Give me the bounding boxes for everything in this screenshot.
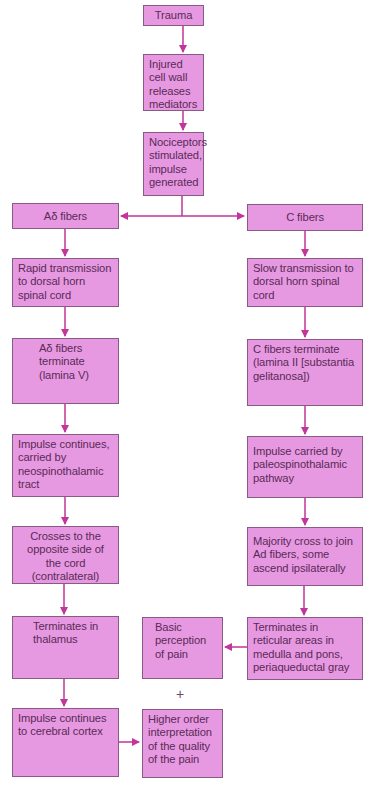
node-terminates-thalamus: Terminates in thalamus: [12, 616, 119, 679]
node-basic-perception: Basic perception of pain: [142, 617, 223, 679]
node-impulse-cortex: Impulse continues to cerebral cortex: [12, 708, 119, 777]
node-crosses-opposite: Crosses to the opposite side of the cord…: [12, 526, 119, 584]
node-a-delta-terminate: Aδ fibers terminate (lamina V): [12, 338, 119, 404]
node-c-fibers: C fibers: [247, 204, 363, 231]
node-higher-order: Higher order interpretation of the quali…: [142, 709, 223, 778]
node-nociceptors: Nociceptors stimulated, impulse generate…: [143, 132, 204, 196]
node-injured-cell: Injured cell wall releases mediators: [143, 54, 204, 111]
node-impulse-continues-neo: Impulse continues, carried by neospinoth…: [12, 434, 119, 497]
node-c-terminate: C fibers terminate (lamina II [substanti…: [247, 339, 363, 406]
node-slow-transmission: Slow transmission to dorsal horn spinal …: [247, 258, 363, 307]
node-rapid-transmission: Rapid transmission to dorsal horn spinal…: [12, 258, 119, 307]
node-trauma: Trauma: [143, 5, 204, 26]
plus-sign: +: [176, 686, 184, 702]
node-terminates-reticular: Terminates in reticular areas in medulla…: [247, 617, 363, 680]
node-impulse-carried-paleo: Impulse carried by paleospinothalamic pa…: [247, 436, 363, 498]
node-a-delta-fibers: Aδ fibers: [12, 203, 119, 229]
node-majority-cross: Majority cross to join Ad fibers, some a…: [247, 527, 363, 586]
